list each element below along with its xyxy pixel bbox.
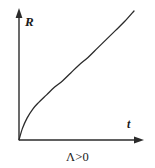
x-axis-arrowhead-icon [134,137,144,144]
y-axis [16,8,23,140]
figure-container: R t Λ>0 [0,0,155,168]
y-axis-arrowhead-icon [16,8,23,18]
chart-caption: Λ>0 [0,150,155,165]
x-axis-label: t [127,118,130,130]
plot-area [0,0,155,168]
x-axis [19,137,144,144]
data-curve-r-of-t [19,11,134,140]
y-axis-label: R [25,15,34,28]
